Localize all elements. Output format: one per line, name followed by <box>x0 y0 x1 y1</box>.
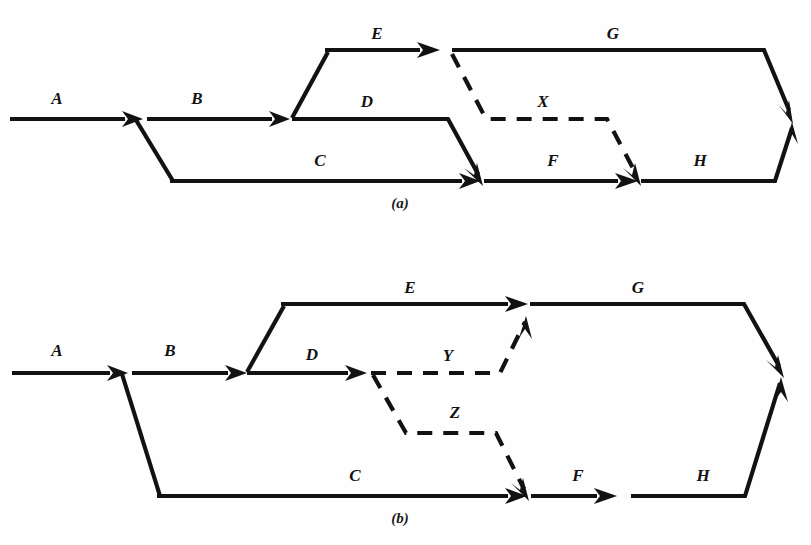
label-b-edge-z: Z <box>449 403 460 422</box>
edge-b-z-path <box>373 375 524 489</box>
node2-to-e-leg <box>292 52 328 118</box>
figure-container: A B C D E F G H X (a) <box>0 0 811 545</box>
label-a-edge-d: D <box>360 92 373 111</box>
edge-b-e-arrowhead <box>505 296 528 312</box>
edge-x-path <box>452 54 636 174</box>
label-b-edge-h: H <box>695 466 710 485</box>
node1b-to-c-leg <box>122 374 160 496</box>
panel-b-edges <box>12 296 788 504</box>
panel-a-edges <box>10 42 798 189</box>
edge-b-g-path <box>530 304 779 366</box>
label-b-edge-b: B <box>163 341 175 360</box>
label-b-edge-g: G <box>632 278 645 297</box>
edge-b-b-arrowhead <box>225 365 247 381</box>
label-b-edge-d: D <box>305 345 318 364</box>
label-a-edge-c: C <box>314 151 326 170</box>
edge-e-arrowhead <box>417 42 440 58</box>
node1-to-c-leg <box>136 120 173 181</box>
edge-b-f-arrowhead <box>594 488 617 504</box>
label-b-edge-e: E <box>403 278 415 297</box>
label-b-edge-a: A <box>50 341 62 360</box>
edge-g-path <box>452 50 789 110</box>
node2b-to-e-leg <box>247 306 284 372</box>
label-a-edge-b: B <box>190 89 202 108</box>
network-diagram-a: A B C D E F G H X (a) <box>0 0 811 545</box>
label-a-edge-h: H <box>692 151 707 170</box>
edge-b-arrowhead <box>269 111 290 127</box>
edge-b-d-arrowhead <box>345 365 367 381</box>
caption-panel-b: (b) <box>391 510 409 527</box>
label-a-edge-g: G <box>607 24 620 43</box>
label-a-edge-x: X <box>536 92 549 111</box>
label-a-edge-f: F <box>546 151 559 170</box>
panel-b-labels: A B C D E F G H Y Z (b) <box>50 278 710 528</box>
edge-h-path <box>641 128 792 181</box>
edge-b-y-arrowhead <box>519 316 532 339</box>
label-a-edge-a: A <box>50 89 62 108</box>
caption-panel-a: (a) <box>391 195 409 212</box>
label-a-edge-e: E <box>370 24 382 43</box>
label-b-edge-y: Y <box>443 346 455 365</box>
label-b-edge-f: F <box>571 466 584 485</box>
label-b-edge-c: C <box>349 466 361 485</box>
